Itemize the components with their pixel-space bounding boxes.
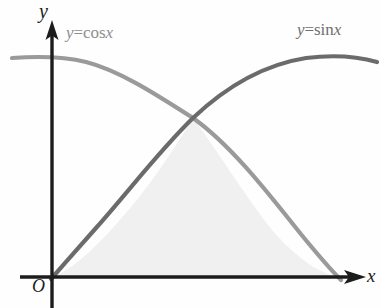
sin-curve-label: y=sinx (297, 21, 341, 38)
cos-label-y: y (66, 23, 74, 42)
plot-area (0, 0, 380, 308)
origin-label: O (32, 277, 45, 295)
cos-label-equals: = (74, 23, 83, 42)
y-axis-label: y (39, 1, 48, 21)
x-axis-label: x (367, 266, 375, 285)
cos-curve-label: y=cosx (66, 24, 113, 41)
trig-graph-figure: y=cosx y=sinx y x O (0, 0, 380, 308)
sin-label-y: y (297, 20, 305, 39)
cos-label-func: cos (83, 23, 106, 42)
cos-label-arg: x (106, 23, 114, 42)
sin-label-arg: x (334, 20, 342, 39)
sin-label-equals: = (305, 20, 314, 39)
sin-label-func: sin (314, 20, 334, 39)
shaded-region (52, 118, 340, 277)
